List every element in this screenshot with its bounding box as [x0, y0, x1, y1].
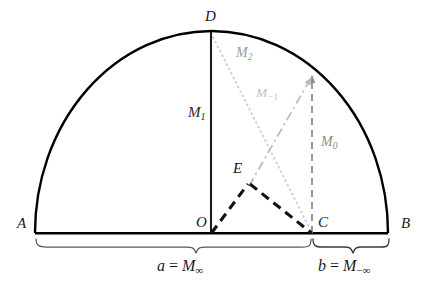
mean-label-M2: M2	[236, 46, 252, 62]
mean-label-M1: M1	[188, 105, 206, 122]
mean-label-M2-base: M	[236, 45, 248, 60]
diagram-canvas	[0, 0, 432, 290]
mean-label-M-minus-1-base: M	[256, 85, 267, 100]
mean-label-M0-base: M	[321, 134, 333, 149]
brace-label-b-equals: =	[330, 257, 339, 274]
brace-label-a: a = M∞	[157, 258, 203, 276]
point-label-D: D	[205, 9, 216, 24]
mean-label-M-minus-1: M−1	[256, 86, 278, 102]
point-label-A: A	[17, 216, 26, 231]
brace-label-b: b = M−∞	[318, 258, 370, 276]
brace-label-a-equals: =	[169, 257, 178, 274]
brace-label-a-base: M	[182, 257, 195, 274]
brace-label-b-base: M	[343, 257, 356, 274]
brace-b-path	[313, 239, 389, 253]
point-label-C: C	[318, 215, 328, 230]
dashed-segment-E-to-C	[250, 184, 312, 233]
point-label-O: O	[196, 215, 207, 230]
mean-label-M0: M0	[321, 135, 337, 151]
dashed-segment-O-to-E	[212, 184, 249, 233]
point-label-B: B	[401, 216, 410, 231]
mean-label-M1-subscript: 1	[201, 111, 206, 122]
geometry-figure: A B C D E O M1 M2 M−1 M0 a = M∞ b = M−∞	[0, 0, 432, 290]
brace-label-b-variable: b	[318, 257, 326, 274]
dotted-chord-D-to-C	[211, 33, 312, 233]
brace-a-path	[36, 239, 311, 253]
mean-label-M2-subscript: 2	[248, 52, 253, 62]
mean-label-M-minus-1-subscript: −1	[267, 92, 278, 102]
brace-label-b-subscript: −∞	[356, 264, 370, 276]
mean-label-M1-base: M	[188, 104, 201, 120]
brace-label-a-subscript: ∞	[195, 264, 203, 276]
mean-label-M0-subscript: 0	[333, 141, 338, 151]
brace-label-a-variable: a	[157, 257, 165, 274]
point-label-E: E	[233, 161, 242, 176]
